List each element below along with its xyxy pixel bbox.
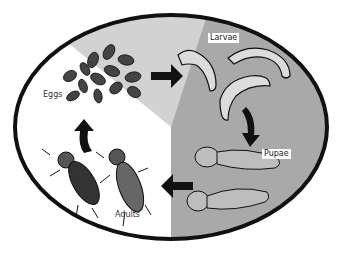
life-cycle-diagram xyxy=(0,0,339,253)
larvae-label: Larvae xyxy=(208,33,239,43)
adults-label: Adults xyxy=(115,210,140,220)
eggs-label: Eggs xyxy=(43,90,62,100)
cycle-regions xyxy=(0,0,339,253)
pupae-label: Pupae xyxy=(262,149,291,159)
